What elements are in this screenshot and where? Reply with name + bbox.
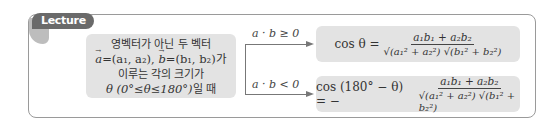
vector-a: a <box>95 52 102 66</box>
formula-fraction: a₁b₁ + a₂b₂ √(a₁² + a₂²) √(b₁² + b₂²) <box>419 75 520 114</box>
angle-range: θ (0°≤θ≤180°) <box>106 82 193 96</box>
condition-line-3: 이루는 각의 크기가 <box>86 67 236 82</box>
arrow-head-top <box>306 41 314 47</box>
formula-box-obtuse: cos (180° − θ) = − a₁b₁ + a₂b₂ √(a₁² + a… <box>316 76 520 112</box>
formula-denominator: √(a₁² + a₂²) √(b₁² + b₂²) <box>419 89 520 114</box>
formula-numerator: a₁b₁ + a₂b₂ <box>411 31 473 45</box>
connector-bottom <box>245 94 311 95</box>
vector-a-components: =(a₁, a₂), <box>102 52 158 66</box>
connector-vertical <box>245 44 246 94</box>
formula-lhs: cos (180° − θ) = − <box>316 80 415 108</box>
branch-condition-nonnegative: a · b ≥ 0 <box>252 27 299 40</box>
condition-line-4: θ (0°≤θ≤180°)일 때 <box>86 82 236 97</box>
condition-line-4-suffix: 일 때 <box>193 83 217 96</box>
formula-numerator: a₁b₁ + a₂b₂ <box>438 75 500 89</box>
formula-lhs: cos θ = <box>335 37 380 51</box>
condition-line-2: a=(a₁, a₂), b=(b₁, b₂)가 <box>86 52 236 67</box>
lecture-badge: Lecture <box>32 13 94 29</box>
vector-b-components: =(b₁, b₂)가 <box>166 52 227 66</box>
connector-top <box>245 44 311 45</box>
formula-box-acute: cos θ = a₁b₁ + a₂b₂ √(a₁² + a₂²) √(b₁² +… <box>316 26 520 62</box>
arrow-head-bottom <box>306 91 314 97</box>
branch-condition-negative: a · b < 0 <box>252 78 299 91</box>
vector-b: b <box>158 52 165 66</box>
formula-fraction: a₁b₁ + a₂b₂ √(a₁² + a₂²) √(b₁² + b₂²) <box>384 31 502 58</box>
condition-box: 영벡터가 아닌 두 벡터 a=(a₁, a₂), b=(b₁, b₂)가 이루는… <box>86 34 236 98</box>
formula-denominator: √(a₁² + a₂²) √(b₁² + b₂²) <box>384 45 502 58</box>
